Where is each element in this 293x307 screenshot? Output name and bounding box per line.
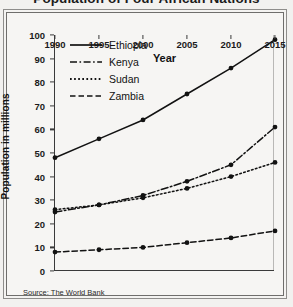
x-tick-mark <box>186 35 187 39</box>
chart-figure: Population of Four African Nations Popul… <box>0 0 293 307</box>
y-tick-label: 100 <box>19 30 45 41</box>
data-point <box>185 186 190 191</box>
data-point <box>97 136 102 141</box>
y-tick-label: 40 <box>19 171 45 182</box>
chart-legend: EthiopiaKenyaSudanZambia <box>69 38 147 103</box>
data-point <box>141 245 146 250</box>
x-tick-mark <box>54 35 55 39</box>
data-point <box>97 247 102 252</box>
legend-key-icon <box>69 74 103 84</box>
y-tick-label: 70 <box>19 100 45 111</box>
x-tick-label: 2010 <box>220 39 241 50</box>
y-tick-label: 60 <box>19 124 45 135</box>
y-tick-label: 50 <box>19 148 45 159</box>
series-line-zambia <box>55 231 275 252</box>
x-tick-label: 2015 <box>264 39 285 50</box>
data-point <box>229 236 234 241</box>
y-tick-label: 10 <box>19 242 45 253</box>
legend-item-ethiopia: Ethiopia <box>69 38 147 52</box>
y-tick-label: 30 <box>19 195 45 206</box>
data-point <box>185 92 190 97</box>
data-point <box>53 207 58 212</box>
data-point <box>273 228 278 233</box>
data-point <box>273 125 278 130</box>
legend-label: Zambia <box>109 90 144 102</box>
source-note: Source: The World Bank <box>23 288 104 297</box>
x-tick-mark <box>274 35 275 39</box>
x-tick-label: 1990 <box>44 39 65 50</box>
data-point <box>273 160 278 165</box>
series-line-sudan <box>55 162 275 209</box>
legend-key-icon <box>69 91 103 101</box>
legend-label: Kenya <box>109 56 139 68</box>
data-point <box>229 162 234 167</box>
data-point <box>229 174 234 179</box>
legend-item-zambia: Zambia <box>69 89 147 103</box>
data-point <box>141 195 146 200</box>
legend-label: Sudan <box>109 73 139 85</box>
legend-label: Ethiopia <box>109 39 147 51</box>
legend-key-icon <box>69 57 103 67</box>
data-point <box>185 179 190 184</box>
chart-title-strip: Population of Four African Nations <box>0 0 293 9</box>
chart-title: Population of Four African Nations <box>33 0 259 6</box>
y-tick-label: 90 <box>19 53 45 64</box>
y-tick-label: 80 <box>19 77 45 88</box>
data-point <box>53 155 58 160</box>
data-point <box>97 203 102 208</box>
data-point <box>141 118 146 123</box>
x-tick-label: 2005 <box>176 39 197 50</box>
data-point <box>53 250 58 255</box>
data-point <box>229 66 234 71</box>
y-axis-label: Population in millions <box>0 93 11 199</box>
legend-key-icon <box>69 40 103 50</box>
figure-inner-border: Population in millions 01020304050607080… <box>6 12 284 296</box>
x-tick-mark <box>230 35 231 39</box>
data-point <box>185 240 190 245</box>
legend-item-kenya: Kenya <box>69 55 147 69</box>
legend-item-sudan: Sudan <box>69 72 147 86</box>
y-tick-label: 0 <box>19 266 45 277</box>
series-line-kenya <box>55 127 275 212</box>
y-tick-label: 20 <box>19 218 45 229</box>
